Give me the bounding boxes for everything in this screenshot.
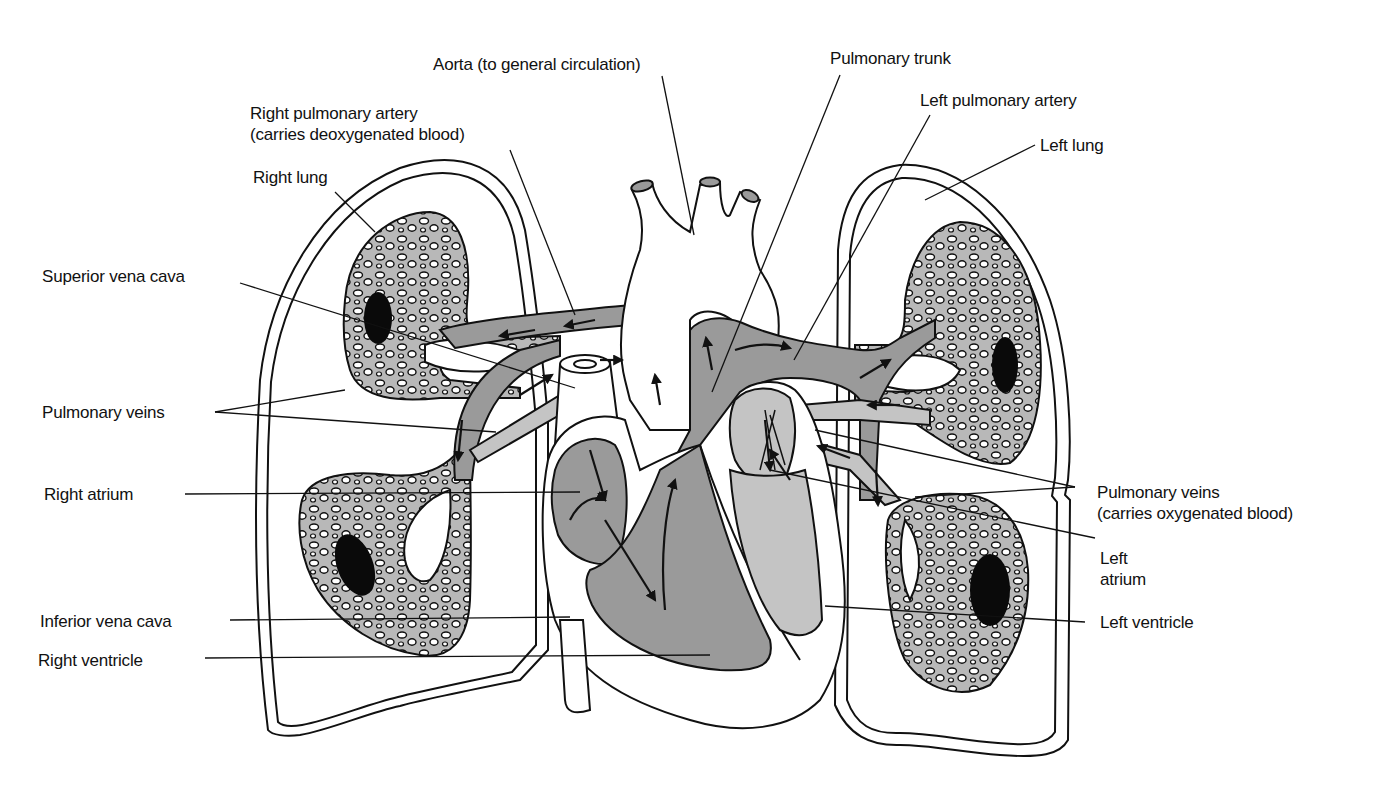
label-right-pulmonary-artery-line2: (carries deoxygenated blood): [250, 124, 465, 145]
label-left-ventricle: Left ventricle: [1100, 612, 1194, 633]
label-right-ventricle: Right ventricle: [38, 650, 143, 671]
label-left-pulmonary-artery: Left pulmonary artery: [920, 90, 1076, 111]
label-left-lung: Left lung: [1040, 135, 1103, 156]
label-pulmonary-veins-left-side: Pulmonary veins: [42, 402, 165, 423]
label-pulmonary-veins-right-line1: Pulmonary veins: [1097, 482, 1293, 503]
label-pulmonary-veins-right-line2: (carries oxygenated blood): [1097, 503, 1293, 524]
label-right-pulmonary-artery: Right pulmonary artery (carries deoxygen…: [250, 103, 465, 145]
label-right-atrium: Right atrium: [44, 484, 133, 505]
label-left-atrium-line1: Left: [1100, 548, 1146, 569]
label-pulmonary-trunk: Pulmonary trunk: [830, 48, 951, 69]
label-left-atrium: Left atrium: [1100, 548, 1146, 590]
right-lower-lung-capillary-bed: [299, 455, 470, 656]
label-right-lung: Right lung: [253, 167, 328, 188]
heart-lung-illustration: [0, 0, 1390, 788]
label-superior-vena-cava: Superior vena cava: [42, 266, 185, 287]
left-lower-lung-capillary-bed: [886, 494, 1028, 692]
label-left-atrium-line2: atrium: [1100, 569, 1146, 590]
label-aorta: Aorta (to general circulation): [433, 54, 641, 75]
left-upper-lung-capillary-bed: [855, 222, 1041, 464]
label-pulmonary-veins-right-side: Pulmonary veins (carries oxygenated bloo…: [1097, 482, 1293, 524]
pulmonary-circulation-diagram: Aorta (to general circulation) Pulmonary…: [0, 0, 1390, 788]
label-right-pulmonary-artery-line1: Right pulmonary artery: [250, 103, 465, 124]
label-inferior-vena-cava: Inferior vena cava: [40, 611, 172, 632]
